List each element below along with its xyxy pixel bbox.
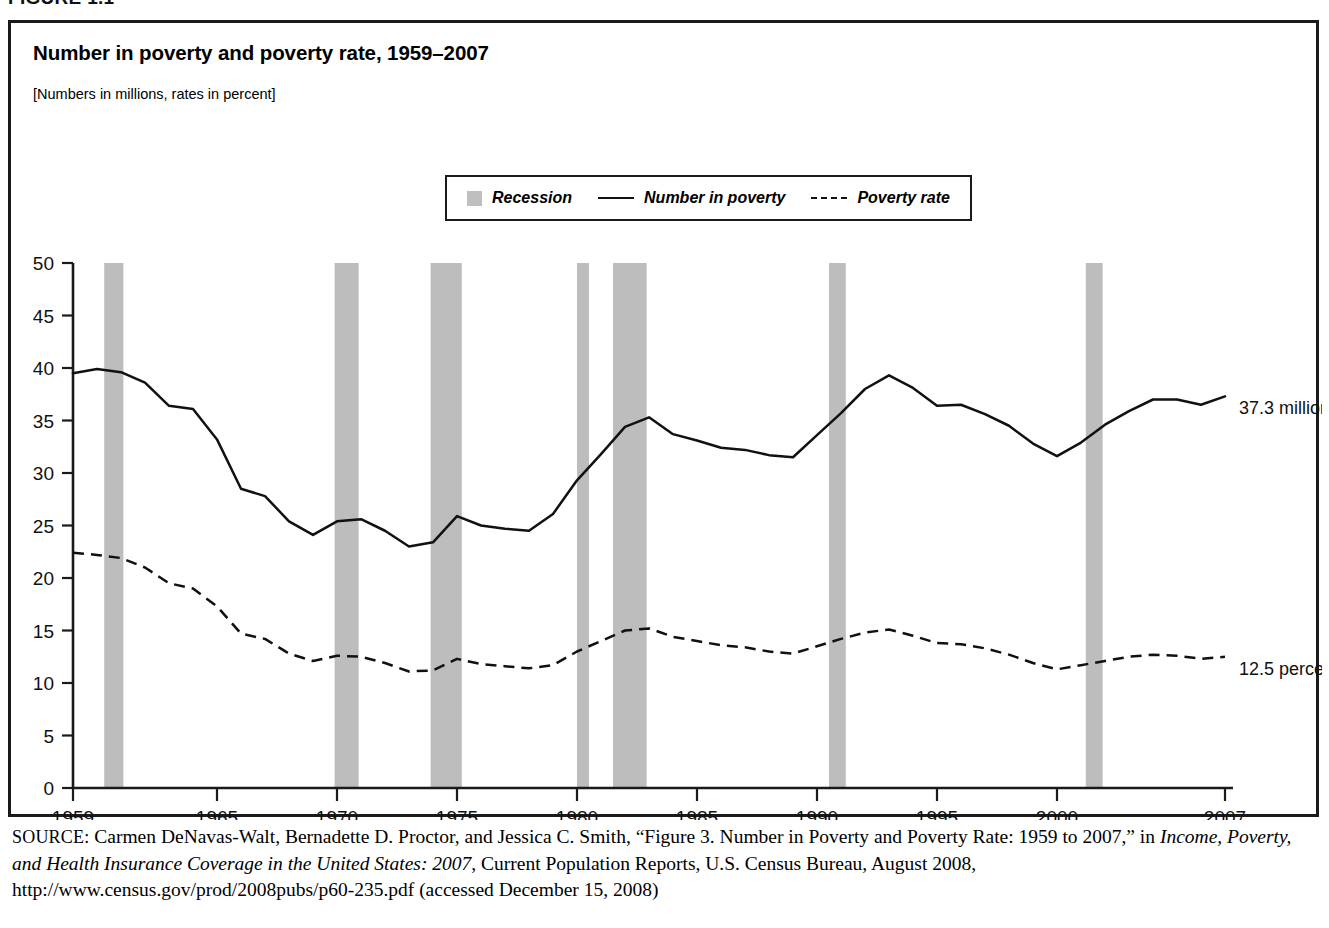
plot-area: 05101520253035404550 1959196519701975198… — [11, 23, 1322, 820]
y-tick-label: 5 — [43, 726, 54, 747]
y-tick-label: 40 — [33, 358, 54, 379]
series-end-label: 12.5 percent — [1239, 659, 1322, 679]
y-tick-label: 50 — [33, 253, 54, 274]
figure-container: Number in poverty and poverty rate, 1959… — [8, 20, 1319, 817]
series-line-solid — [73, 369, 1225, 546]
series-line-dashed — [73, 553, 1225, 672]
data-series-group — [73, 369, 1225, 671]
recession-band — [104, 263, 123, 788]
legend-item-number-in-poverty: Number in poverty — [598, 189, 785, 207]
source-prefix: SOURCE: — [12, 827, 89, 847]
source-text-1: Carmen DeNavas-Walt, Bernadette D. Proct… — [89, 826, 1159, 847]
y-tick-label: 30 — [33, 463, 54, 484]
series-end-label: 37.3 million — [1239, 398, 1322, 418]
y-tick-label: 35 — [33, 411, 54, 432]
legend-item-recession: Recession — [467, 189, 572, 207]
x-tick-label: 2000 — [1036, 807, 1078, 820]
recession-band — [1086, 263, 1103, 788]
y-tick-label: 20 — [33, 568, 54, 589]
legend-label-poverty-rate: Poverty rate — [857, 189, 950, 207]
x-tick-labels-group: 1959196519701975198019851990199520002007 — [52, 788, 1246, 820]
y-tick-label: 0 — [43, 778, 54, 799]
x-tick-label: 2007 — [1204, 807, 1246, 820]
x-tick-label: 1995 — [916, 807, 958, 820]
figure-subtitle: [Numbers in millions, rates in percent] — [33, 86, 276, 102]
recession-band — [829, 263, 846, 788]
y-tick-label: 45 — [33, 306, 54, 327]
recession-band — [613, 263, 647, 788]
recession-bands-group — [104, 263, 1102, 788]
recession-band — [335, 263, 359, 788]
figure-number-label: FIGURE 1.1 — [8, 0, 114, 9]
source-note: SOURCE: Carmen DeNavas-Walt, Bernadette … — [12, 824, 1317, 904]
recession-band — [431, 263, 462, 788]
recession-band — [577, 263, 589, 788]
series-end-labels-group: 37.3 million12.5 percent — [1239, 398, 1322, 678]
figure-title: Number in poverty and poverty rate, 1959… — [33, 41, 489, 65]
x-tick-label: 1959 — [52, 807, 94, 820]
solid-line-swatch-icon — [598, 197, 634, 199]
x-tick-label: 1985 — [676, 807, 718, 820]
legend-label-number-in-poverty: Number in poverty — [644, 189, 785, 207]
x-tick-label: 1975 — [436, 807, 478, 820]
y-tick-labels-group: 05101520253035404550 — [33, 253, 73, 799]
y-tick-label: 15 — [33, 621, 54, 642]
legend-label-recession: Recession — [492, 189, 572, 207]
dashed-line-swatch-icon — [811, 197, 847, 199]
y-tick-label: 25 — [33, 516, 54, 537]
x-tick-label: 1965 — [196, 807, 238, 820]
chart-legend: Recession Number in poverty Poverty rate — [445, 175, 972, 221]
axes-group — [73, 263, 1233, 788]
x-tick-label: 1980 — [556, 807, 598, 820]
x-tick-label: 1970 — [316, 807, 358, 820]
recession-swatch-icon — [467, 191, 482, 206]
chart-svg: 05101520253035404550 1959196519701975198… — [11, 23, 1322, 820]
legend-item-poverty-rate: Poverty rate — [811, 189, 950, 207]
x-tick-label: 1990 — [796, 807, 838, 820]
y-tick-label: 10 — [33, 673, 54, 694]
